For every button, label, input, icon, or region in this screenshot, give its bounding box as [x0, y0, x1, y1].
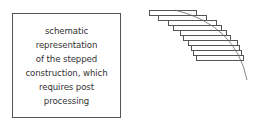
- step-layers: [150, 11, 244, 61]
- step-layer: [184, 36, 231, 41]
- step-layer: [189, 41, 238, 46]
- step-layer: [174, 26, 222, 31]
- stepped-construction-diagram: [0, 0, 261, 124]
- step-layer: [159, 16, 207, 21]
- step-layer: [169, 21, 217, 26]
- step-layer: [192, 46, 240, 51]
- step-layer: [194, 51, 242, 56]
- step-layer: [197, 56, 244, 61]
